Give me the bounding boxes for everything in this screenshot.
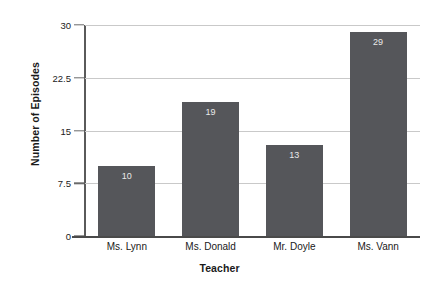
y-tick-label: 22.5	[1, 72, 71, 83]
x-category-label: Ms. Lynn	[85, 241, 169, 252]
gridline	[85, 25, 420, 26]
x-category-label: Mr. Doyle	[253, 241, 337, 252]
plot-area: 10191329	[85, 25, 420, 236]
x-axis-line	[72, 236, 420, 238]
y-tick-mark	[74, 130, 84, 131]
bar[interactable]: 29	[350, 32, 407, 236]
bar[interactable]: 13	[266, 145, 323, 236]
y-tick-label: 0	[1, 231, 71, 242]
y-tick-mark	[74, 183, 84, 184]
bar-value-label: 13	[266, 150, 323, 160]
bar-value-label: 10	[98, 171, 155, 181]
x-axis-title: Teacher	[0, 262, 439, 274]
x-category-label: Ms. Donald	[169, 241, 253, 252]
bar-value-label: 19	[182, 107, 239, 117]
bar-chart: Number of Episodes 07.51522.530 10191329…	[0, 0, 439, 283]
y-tick-label: 7.5	[1, 178, 71, 189]
y-tick-label: 30	[1, 20, 71, 31]
y-tick-label: 15	[1, 125, 71, 136]
bar[interactable]: 10	[98, 166, 155, 236]
bar[interactable]: 19	[182, 102, 239, 236]
y-tick-mark	[74, 24, 84, 25]
bar-value-label: 29	[350, 37, 407, 47]
x-category-label: Ms. Vann	[336, 241, 420, 252]
y-tick-mark	[74, 77, 84, 78]
